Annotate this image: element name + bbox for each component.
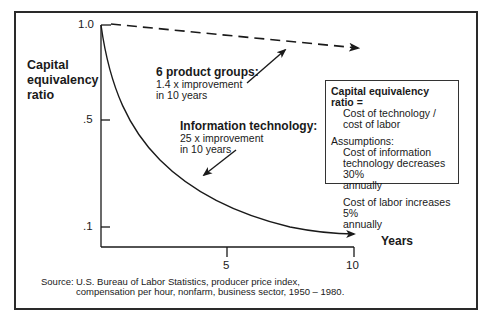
annotation-6-product-groups: 6 product groups: 1.4 x improvement in 1… xyxy=(156,65,259,101)
definition-line: cost of labor xyxy=(331,119,454,130)
definition-box: Capital equivalency ratio = Cost of tech… xyxy=(325,80,459,184)
assumption-line: annually xyxy=(331,219,454,230)
source-line: compensation per hour, nonfarm, business… xyxy=(76,287,344,297)
series-6-product-groups xyxy=(111,24,358,48)
x-axis-label: Years xyxy=(381,234,413,248)
assumption-line: annually xyxy=(331,180,454,191)
definition-title: Capital equivalency ratio = xyxy=(331,86,454,108)
y-tick-1-0: 1.0 xyxy=(78,18,94,30)
assumption-line: technology decreases 30% xyxy=(331,158,454,180)
annotation-title: Information technology: xyxy=(180,119,317,133)
x-tick-5: 5 xyxy=(223,259,229,271)
assumption-line: Cost of labor increases 5% xyxy=(331,197,454,219)
source-label: Source: xyxy=(41,277,74,287)
y-tick-0-5: .5 xyxy=(83,113,93,125)
x-tick-10: 10 xyxy=(346,259,359,271)
annotation-line: in 10 years xyxy=(180,144,317,155)
y-tick-0-1: .1 xyxy=(83,220,93,232)
y-axis-label: Capital equivalency ratio xyxy=(27,58,107,103)
annotation-line: in 10 years xyxy=(156,90,259,101)
source-text: U.S. Bureau of Labor Statistics, produce… xyxy=(76,277,344,297)
annotation-title: 6 product groups: xyxy=(156,65,259,79)
x-axis xyxy=(101,247,354,257)
annotation-information-technology: Information technology: 25 x improvement… xyxy=(180,119,317,155)
